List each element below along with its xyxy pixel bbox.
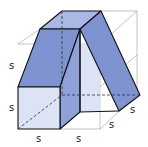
label-left-upper: s	[9, 60, 14, 71]
label-bottom-left: s	[36, 133, 41, 144]
solid-faces	[18, 11, 140, 129]
label-bottom-mid: s	[76, 133, 81, 144]
label-depth-1: s	[109, 119, 114, 130]
front-cube-face	[18, 87, 60, 129]
solid-diagram: s s s s s s	[0, 0, 148, 147]
label-left-lower: s	[9, 102, 14, 113]
label-depth-2: s	[130, 104, 135, 115]
